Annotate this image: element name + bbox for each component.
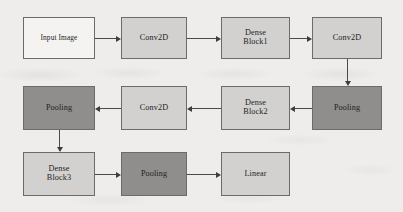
arrowhead-pooling-1-to-dense-block2 — [290, 106, 295, 112]
edge-line-dense-block3-to-pooling-3 — [95, 174, 116, 175]
node-pooling-2[interactable]: Pooling — [23, 86, 95, 130]
node-linear[interactable]: Linear — [221, 152, 290, 196]
node-input-image[interactable]: Input Image — [23, 17, 95, 59]
node-label-conv2d-2: Conv2D — [333, 34, 361, 43]
node-pooling-1[interactable]: Pooling — [312, 86, 382, 130]
edge-line-conv2d-3-to-pooling-2 — [100, 108, 121, 109]
edge-line-conv2d-1-to-dense-block1 — [187, 38, 216, 39]
edge-line-dense-block2-to-conv2d-3 — [192, 108, 221, 109]
node-label-input-image: Input Image — [40, 34, 77, 42]
node-label-dense-block1: Dense Block1 — [243, 29, 267, 47]
node-label-pooling-3: Pooling — [141, 170, 167, 179]
arrowhead-conv2d-3-to-pooling-2 — [95, 106, 100, 112]
node-label-dense-block2: Dense Block2 — [243, 99, 267, 117]
edge-line-pooling-1-to-dense-block2 — [295, 108, 312, 109]
edge-line-pooling-3-to-linear — [187, 174, 216, 175]
node-dense-block3[interactable]: Dense Block3 — [23, 152, 95, 196]
node-pooling-3[interactable]: Pooling — [121, 152, 187, 196]
node-label-pooling-1: Pooling — [334, 104, 360, 113]
edge-line-conv2d-2-to-pooling-1 — [347, 59, 348, 81]
node-label-pooling-2: Pooling — [46, 104, 72, 113]
edge-line-input-image-to-conv2d-1 — [95, 38, 116, 39]
node-conv2d-2[interactable]: Conv2D — [312, 17, 382, 59]
node-label-conv2d-1: Conv2D — [140, 34, 168, 43]
node-label-conv2d-3: Conv2D — [140, 104, 168, 113]
node-label-dense-block3: Dense Block3 — [47, 165, 71, 183]
edge-line-dense-block1-to-conv2d-2 — [290, 38, 307, 39]
node-dense-block2[interactable]: Dense Block2 — [221, 86, 290, 130]
architecture-diagram: Input ImageConv2DDense Block1Conv2DPooli… — [0, 0, 403, 212]
node-conv2d-3[interactable]: Conv2D — [121, 86, 187, 130]
node-label-linear: Linear — [245, 170, 267, 179]
arrowhead-dense-block2-to-conv2d-3 — [187, 106, 192, 112]
node-conv2d-1[interactable]: Conv2D — [121, 17, 187, 59]
edge-line-pooling-2-to-dense-block3 — [59, 130, 60, 147]
node-dense-block1[interactable]: Dense Block1 — [221, 17, 290, 59]
